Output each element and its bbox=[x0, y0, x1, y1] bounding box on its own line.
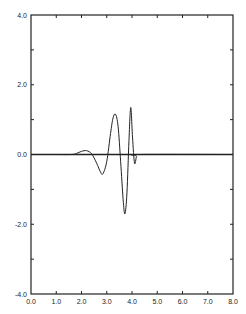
chart: 0.01.02.03.04.05.06.07.08.0 -4.0-2.00.02… bbox=[0, 0, 246, 314]
x-tick-label: 8.0 bbox=[228, 298, 238, 305]
y-tick-label: 0.0 bbox=[17, 151, 27, 158]
x-tick-label: 5.0 bbox=[152, 298, 162, 305]
series-waveform bbox=[31, 107, 233, 214]
x-tick-label: 7.0 bbox=[203, 298, 213, 305]
x-tick-label: 6.0 bbox=[178, 298, 188, 305]
y-tick-label: -2.0 bbox=[15, 221, 27, 228]
x-tick-label: 4.0 bbox=[127, 298, 137, 305]
y-tick-label: 4.0 bbox=[17, 12, 27, 19]
x-tick-label: 2.0 bbox=[77, 298, 87, 305]
x-tick-label: 0.0 bbox=[26, 298, 36, 305]
x-tick-label: 1.0 bbox=[51, 298, 61, 305]
x-axis-ticks: 0.01.02.03.04.05.06.07.08.0 bbox=[26, 15, 238, 305]
x-tick-label: 3.0 bbox=[102, 298, 112, 305]
y-tick-label: -4.0 bbox=[15, 291, 27, 298]
y-tick-label: 2.0 bbox=[17, 81, 27, 88]
waveform-line bbox=[31, 107, 233, 214]
